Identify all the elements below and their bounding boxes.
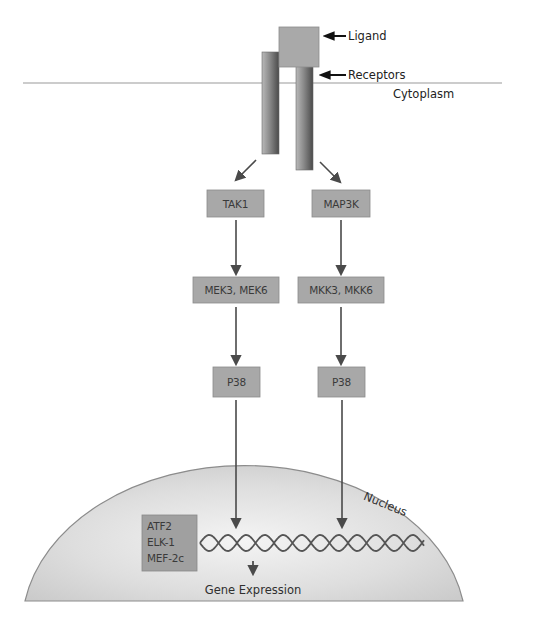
kinase-box-mek3-mek6: MEK3, MEK6 — [193, 277, 279, 303]
cytoplasm-label: Cytoplasm — [393, 87, 454, 101]
kinase-label: P38 — [332, 376, 351, 388]
gene-expression-label: Gene Expression — [205, 583, 301, 597]
kinase-label: MEK3, MEK6 — [204, 284, 268, 296]
kinase-box-tak1: TAK1 — [207, 190, 264, 217]
arrow-receptor-to-map3k — [320, 162, 340, 182]
ligand-label: Ligand — [348, 29, 387, 43]
kinase-label: TAK1 — [222, 198, 249, 210]
receptor-right — [296, 66, 313, 170]
nucleus — [25, 466, 463, 601]
transcription-factor-label: ELK-1 — [147, 536, 175, 548]
kinase-label: P38 — [227, 376, 246, 388]
kinase-box-mkk3-mkk6: MKK3, MKK6 — [298, 277, 384, 303]
transcription-factor-label: MEF-2c — [147, 552, 184, 564]
kinase-box-map3k: MAP3K — [312, 190, 370, 217]
kinase-box-p38-right: P38 — [318, 367, 365, 397]
kinase-label: MAP3K — [323, 198, 359, 210]
transcription-factors-box: ATF2 ELK-1 MEF-2c — [142, 515, 197, 571]
transcription-factor-label: ATF2 — [147, 520, 172, 532]
arrow-receptor-to-tak1 — [236, 160, 256, 180]
kinase-box-p38-left: P38 — [213, 367, 260, 397]
receptors-label: Receptors — [348, 68, 406, 82]
receptor-left — [262, 52, 279, 154]
signaling-diagram: Ligand Receptors Cytoplasm TAK1 MEK3, ME… — [0, 0, 548, 627]
kinase-label: MKK3, MKK6 — [309, 284, 373, 296]
ligand — [279, 27, 319, 67]
